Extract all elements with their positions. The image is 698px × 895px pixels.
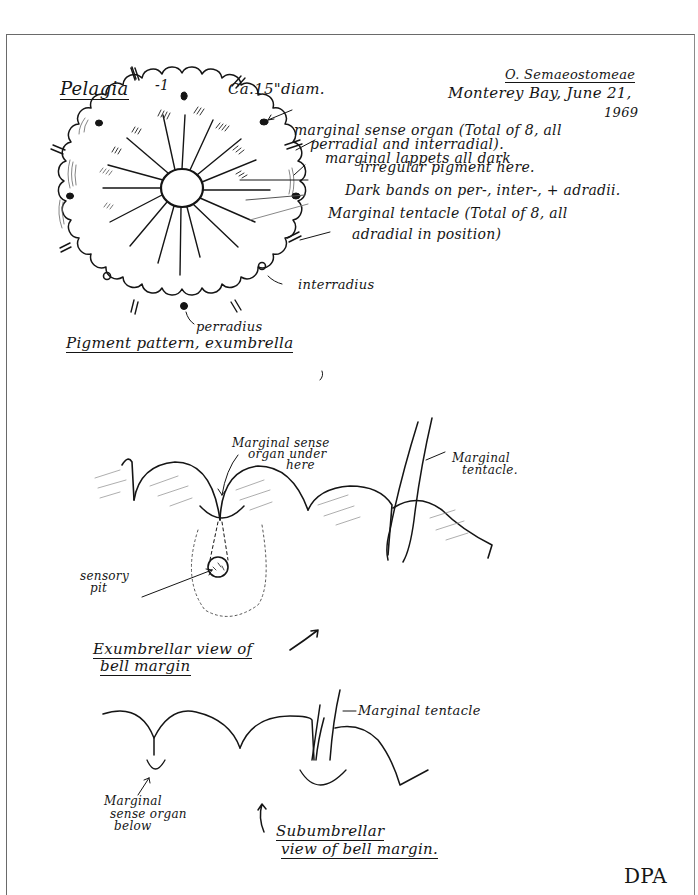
- plate-number: -1: [155, 78, 169, 92]
- figure-3-caption-2: view of bell margin.: [281, 842, 438, 859]
- order-name: O. Semaeostomeae: [505, 68, 635, 83]
- label-interradius: interradius: [298, 278, 374, 291]
- label-tentacle-1: Marginal tentacle (Total of 8, all: [328, 206, 567, 220]
- figure-3-caption-1: Subumbrellar: [276, 824, 384, 841]
- label-tentacle-b: tentacle.: [462, 464, 518, 476]
- label-sensory-pit-b: pit: [90, 582, 107, 594]
- genus-title: Pelagia: [60, 80, 129, 100]
- label-perradius: perradius: [196, 320, 262, 333]
- diameter-note: Ca.15"diam.: [228, 82, 325, 97]
- label-sense-organ-2: perradial and interradial).: [310, 137, 504, 151]
- label-dark-bands: Dark bands on per-, inter-, + adradii.: [345, 183, 621, 197]
- label-irregular-pigment: irregular pigment here.: [360, 160, 535, 174]
- label-sense-organ-sub-c: below: [114, 820, 152, 832]
- label-tentacle-2: adradial in position): [352, 227, 501, 241]
- label-sense-organ-1: marginal sense organ (Total of 8, all: [294, 123, 562, 137]
- label-tentacle-sub: Marginal tentacle: [358, 704, 481, 717]
- figure-2-caption-2: bell margin: [100, 659, 191, 676]
- locality-date: Monterey Bay, June 21,: [448, 86, 632, 101]
- label-sense-organ-c: here: [286, 459, 315, 471]
- figure-1-caption: Pigment pattern, exumbrella: [66, 336, 293, 353]
- year: 1969: [604, 106, 638, 119]
- author-initials: DPA: [624, 866, 667, 886]
- label-sense-organ-sub-a: Marginal: [104, 795, 162, 807]
